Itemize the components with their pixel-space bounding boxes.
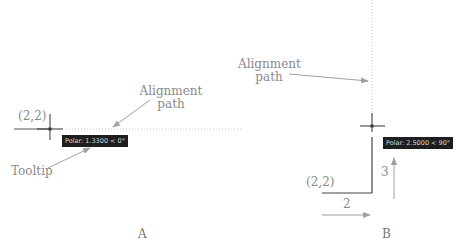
alignment-path-label-a: Alignment path <box>136 85 206 111</box>
panel-caption-a: A <box>138 227 147 241</box>
panel-a-drawing <box>14 100 243 168</box>
alignment-label-a-line2: path <box>136 98 206 111</box>
coordinate-label-b: (2,2) <box>306 176 334 189</box>
tooltip-arrow-a <box>48 148 90 168</box>
polar-tooltip-a: Polar: 1.3300 < 0° <box>62 135 128 147</box>
coordinate-label-a: (2,2) <box>18 110 46 123</box>
diagram-canvas <box>0 0 458 245</box>
panel-caption-b: B <box>382 227 391 241</box>
crosshair-icon-b <box>360 113 385 132</box>
polar-tooltip-b: Polar: 2.5000 < 90° <box>383 137 453 149</box>
alignment-label-b-line2: path <box>238 71 300 84</box>
alignment-arrow-b <box>289 74 368 81</box>
vertical-dimension-label: 3 <box>381 166 389 179</box>
horizontal-dimension-label: 2 <box>343 198 351 211</box>
tooltip-callout-label: Tooltip <box>11 165 53 178</box>
panel-b-drawing <box>289 0 394 215</box>
alignment-path-label-b: Alignment path <box>238 58 300 84</box>
